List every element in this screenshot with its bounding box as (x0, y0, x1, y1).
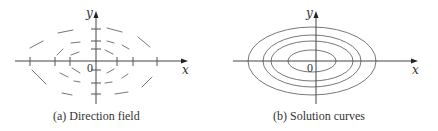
caption-solution-curves: (b) Solution curves (273, 110, 365, 122)
x-axis-label: x (412, 64, 419, 76)
solution-curves-plot (0, 0, 438, 131)
origin-label: 0 (307, 62, 313, 74)
y-axis-label: y (306, 7, 313, 19)
y-axis-arrow-icon (314, 11, 319, 18)
figure: y x 0 (a) Direction field y x 0 (b) Solu… (0, 0, 438, 131)
